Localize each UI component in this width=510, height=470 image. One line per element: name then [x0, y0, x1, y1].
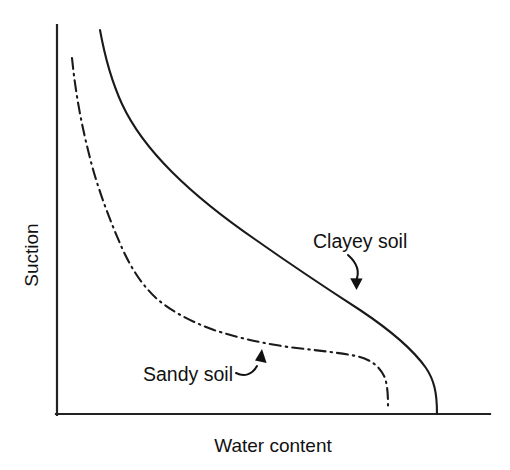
sandy-soil-arrow-icon [255, 349, 267, 363]
clayey-soil-label: Clayey soil [313, 230, 407, 252]
figure-container: Clayey soil Sandy soil Suction Water con… [0, 0, 510, 470]
sandy-soil-leader-line [236, 366, 257, 375]
y-axis-label: Suction [21, 223, 42, 286]
clayey-soil-annotation: Clayey soil [313, 230, 407, 290]
x-axis-label: Water content [214, 435, 332, 456]
sandy-soil-annotation: Sandy soil [143, 349, 267, 385]
clayey-soil-curve [100, 30, 437, 414]
clayey-soil-leader-line [348, 255, 358, 281]
soil-suction-chart: Clayey soil Sandy soil Suction Water con… [0, 0, 510, 470]
sandy-soil-label: Sandy soil [143, 363, 233, 385]
axes-group [56, 25, 490, 415]
clayey-soil-arrow-icon [350, 278, 362, 290]
axis-labels-group: Suction Water content [21, 223, 333, 456]
clayey-soil-series [100, 30, 437, 414]
